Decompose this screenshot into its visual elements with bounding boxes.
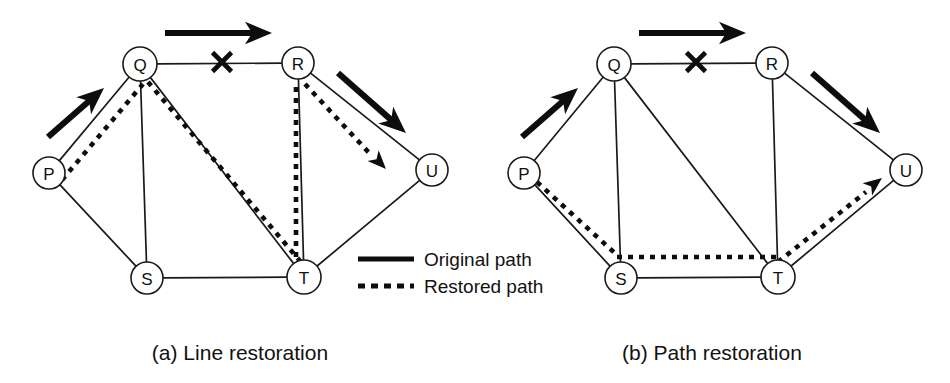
- edge-t-u: [317, 181, 419, 266]
- edge-r-t: [298, 79, 303, 259]
- node-p[interactable]: P: [33, 157, 65, 189]
- flow-arrow-ru-shaft: [812, 73, 868, 122]
- flow-arrow-ru-shaft: [338, 73, 394, 122]
- node-t-label: T: [299, 269, 309, 288]
- node-s-label: S: [615, 270, 626, 289]
- restored-p-s: [537, 182, 618, 256]
- panel-a-flow-arrows: [48, 22, 413, 142]
- edge-r-u: [785, 73, 893, 159]
- edge-s-t: [163, 277, 286, 278]
- restored-q-t: [148, 82, 311, 274]
- panel-a-restored-arrowhead-shape: [368, 150, 392, 174]
- restored-p-q: [62, 84, 143, 180]
- flow-arrow-pq-shaft: [48, 99, 92, 137]
- panel-b-nodes: PQRSTU: [508, 47, 922, 294]
- edge-q-s: [141, 81, 147, 261]
- node-q-label: Q: [607, 56, 620, 75]
- node-r-label: R: [766, 55, 778, 74]
- edge-q-t: [151, 78, 294, 263]
- node-t[interactable]: T: [287, 260, 321, 294]
- node-p-label: P: [43, 165, 54, 184]
- edge-q-s: [615, 81, 621, 261]
- node-q[interactable]: Q: [597, 47, 631, 81]
- node-t-label: T: [773, 269, 783, 288]
- restoration-figure: PQRSTUPQRSTU Original path Restored path…: [0, 0, 950, 383]
- edge-r-t: [772, 79, 777, 259]
- node-s[interactable]: S: [131, 262, 163, 294]
- panel-b-restored-arrowhead-shape: [863, 172, 887, 196]
- node-u-label: U: [900, 162, 912, 181]
- captions-layer: (a) Line restoration(b) Path restoration: [152, 341, 802, 364]
- edge-p-s: [60, 185, 135, 266]
- node-r[interactable]: R: [282, 47, 314, 79]
- legend-original-path-label: Original path: [424, 249, 532, 270]
- node-r[interactable]: R: [756, 47, 788, 79]
- node-p-label: P: [518, 165, 529, 184]
- legend-restored-path-label: Restored path: [424, 276, 543, 297]
- node-u-label: U: [426, 162, 438, 181]
- node-u[interactable]: U: [416, 154, 448, 186]
- edge-s-t: [637, 277, 760, 278]
- panel-b-flow-arrows: [522, 22, 887, 142]
- edge-p-s: [535, 185, 610, 266]
- diagram-canvas: PQRSTUPQRSTU Original path Restored path…: [0, 0, 950, 383]
- node-u[interactable]: U: [890, 154, 922, 186]
- panel-a-restored-arrowhead: [368, 150, 392, 174]
- panel-a-caption: (a) Line restoration: [152, 341, 328, 364]
- node-q[interactable]: Q: [123, 47, 157, 81]
- panel-b-restored-arrowhead: [863, 172, 887, 196]
- node-s[interactable]: S: [605, 262, 637, 294]
- edge-q-t: [625, 78, 768, 263]
- edge-t-u: [791, 181, 893, 266]
- restored-t-u: [778, 192, 866, 262]
- node-q-label: Q: [133, 56, 146, 75]
- panel-b-restored-path: [537, 172, 887, 262]
- panel-b: PQRSTU: [508, 22, 922, 294]
- panel-a-failure-mark-icon: [213, 53, 232, 72]
- node-p[interactable]: P: [508, 157, 540, 189]
- node-s-label: S: [141, 270, 152, 289]
- edge-r-u: [311, 73, 419, 159]
- node-r-label: R: [292, 55, 304, 74]
- panel-a: PQRSTU: [33, 22, 448, 294]
- panel-b-caption: (b) Path restoration: [622, 341, 802, 364]
- legend: Original path Restored path: [358, 249, 543, 297]
- panel-b-failure-mark-icon: [687, 53, 706, 72]
- node-t[interactable]: T: [761, 260, 795, 294]
